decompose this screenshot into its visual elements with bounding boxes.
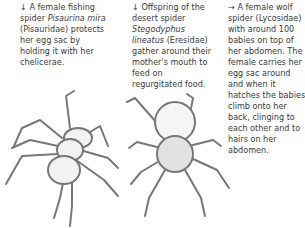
arrow-down-icon: ↓: [132, 2, 139, 12]
fishing-spider-illustration: [0, 88, 125, 228]
caption-fishing-spider: ↓ A female fishing spider Pisaurina mira…: [20, 2, 106, 68]
caption-wolf-spider: → A female wolf spider (Lycosidae) with …: [228, 2, 305, 156]
caption-desert-spider: ↓ Offspring of the desert spider Stegody…: [132, 2, 214, 90]
desert-spider-illustration: [125, 88, 235, 228]
arrow-right-icon: →: [228, 2, 235, 12]
arrow-down-icon: ↓: [20, 2, 27, 12]
